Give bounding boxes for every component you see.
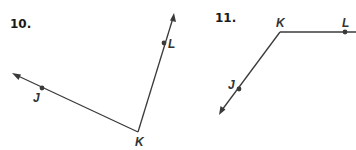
label-l: L (168, 37, 175, 51)
arrow-head-icon (170, 13, 176, 22)
figure-number: 10. (10, 17, 31, 31)
geometry-diagram: 10. J L K 11. K L J (0, 0, 356, 150)
figure-10: 10. J L K (10, 13, 176, 149)
ray-kl (138, 18, 173, 132)
label-j: J (228, 78, 235, 92)
figure-number: 11. (215, 11, 236, 25)
point-l (162, 41, 167, 46)
ray-kj (222, 32, 280, 110)
arrow-head-icon (12, 73, 21, 80)
point-l (343, 30, 348, 35)
label-l: L (342, 16, 349, 30)
figure-11: 11. K L J (215, 11, 356, 115)
point-j (237, 87, 242, 92)
label-j: J (33, 91, 40, 105)
label-k: K (276, 16, 286, 30)
label-k: K (135, 135, 145, 149)
point-j (40, 86, 45, 91)
